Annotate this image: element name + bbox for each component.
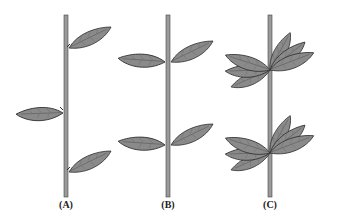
panel-label-b: (B) [153,199,183,210]
leaf-icon [69,151,111,172]
leaf-icon [171,124,213,145]
panel-a-alternate [16,15,111,197]
stem-b [166,15,170,197]
leaf-icon [171,41,213,62]
leaf-icon [118,43,165,78]
panel-c-whorled [225,15,313,197]
phyllotaxy-diagram [0,0,337,224]
leaf-icon [69,27,111,48]
panel-b-opposite [118,15,213,197]
panel-label-a: (A) [51,199,81,210]
panel-label-c: (C) [255,199,285,210]
leaf-icon [118,126,165,161]
stem-c [268,15,272,197]
leaf-icon [16,94,63,132]
